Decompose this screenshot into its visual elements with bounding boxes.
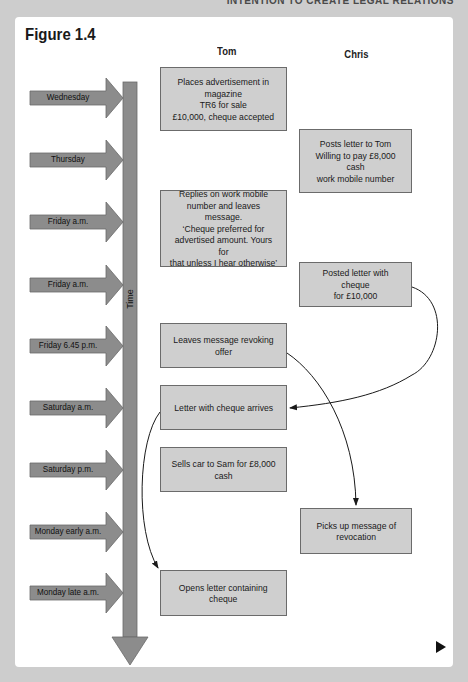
event-text: Sells car to Sam for £8,000 cash <box>171 458 275 481</box>
time-axis-label: Time <box>125 289 135 309</box>
event-text: Picks up message of revocation <box>316 520 396 543</box>
day-label: Friday a.m. <box>32 279 104 289</box>
event-text: Opens letter containing cheque <box>179 582 268 605</box>
chris-event-posted-cheque: Posted letter with cheque for £10,000 <box>299 262 412 307</box>
chris-event-picks-up: Picks up message of revocation <box>300 508 412 554</box>
tom-event-revoke: Leaves message revoking offer <box>160 323 287 368</box>
event-text: Posted letter with cheque for £10,000 <box>308 267 403 302</box>
day-label: Friday 6.45 p.m. <box>32 340 104 350</box>
event-text: Replies on work mobile number and leaves… <box>170 188 278 269</box>
connector-revocation-to-pickup <box>287 353 356 505</box>
play-triangle-icon[interactable] <box>436 641 446 653</box>
event-text: Leaves message revoking offer <box>173 334 273 357</box>
day-label: Friday a.m. <box>32 216 104 226</box>
event-text: Letter with cheque arrives <box>174 402 273 414</box>
day-label: Thursday <box>32 154 104 164</box>
time-axis-arrow <box>112 82 148 665</box>
event-text: Posts letter to Tom Willing to pay £8,00… <box>308 138 403 184</box>
tom-event-letter-arrives: Letter with cheque arrives <box>160 385 287 430</box>
tom-event-opens-letter: Opens letter containing cheque <box>160 570 287 616</box>
tom-event-reply: Replies on work mobile number and leaves… <box>160 190 287 267</box>
day-label: Wednesday <box>32 92 104 102</box>
day-label: Saturday a.m. <box>32 402 104 412</box>
tom-event-advertisement: Places advertisement in magazine TR6 for… <box>160 67 287 131</box>
day-label: Monday late a.m. <box>32 587 104 597</box>
connector-arrives-to-opens <box>142 412 160 568</box>
tom-event-sells-car: Sells car to Sam for £8,000 cash <box>160 447 287 492</box>
chris-event-posts-letter: Posts letter to Tom Willing to pay £8,00… <box>299 129 412 193</box>
event-text: Places advertisement in magazine TR6 for… <box>173 76 275 122</box>
day-label: Monday early a.m. <box>32 526 104 536</box>
day-label: Saturday p.m. <box>32 464 104 474</box>
